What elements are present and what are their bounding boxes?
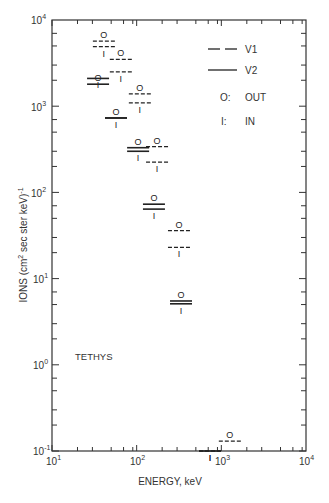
out-marker: O <box>112 107 119 117</box>
out-marker: O <box>100 30 107 40</box>
x-tick-labels: 101 102 103 104 <box>46 454 314 467</box>
x-tick-1e1: 101 <box>46 454 61 467</box>
data-point: O <box>143 193 165 204</box>
out-marker: O <box>117 48 124 58</box>
data-point: I <box>129 103 151 115</box>
data-point: I <box>93 47 115 59</box>
in-marker: I <box>156 164 159 174</box>
y-tick-1e4: 104 <box>31 13 46 26</box>
out-marker: O <box>154 136 161 146</box>
legend-v2-label: V2 <box>245 65 258 76</box>
out-marker: O <box>175 220 182 230</box>
y-tick-1e1: 101 <box>33 272 48 285</box>
x-tick-1e4: 104 <box>299 454 314 467</box>
data-point: O <box>219 430 241 441</box>
legend-in-label: IN <box>245 116 255 127</box>
data-point: I <box>170 304 192 316</box>
x-axis-title: ENERGY, keV <box>138 476 202 487</box>
chart-canvas: 104 103 102 101 100 10-1 101 102 103 104… <box>0 0 329 503</box>
data-point: I <box>146 162 168 174</box>
out-marker: O <box>135 137 142 147</box>
in-marker: I <box>178 249 181 259</box>
tethys-annotation: TETHYS <box>75 351 112 362</box>
data-points: OOOOOOIIIIIIOOOOOIIIIII <box>87 30 241 463</box>
y-tick-1e0: 100 <box>33 358 48 371</box>
out-marker: O <box>136 83 143 93</box>
out-marker: O <box>150 193 157 203</box>
y-tick-labels: 104 103 102 101 100 10-1 <box>31 13 50 457</box>
in-marker: I <box>97 80 100 90</box>
in-marker: I <box>137 153 140 163</box>
x-tick-1e3: 103 <box>215 454 230 467</box>
data-point: I <box>168 247 190 259</box>
in-marker: I <box>103 49 106 59</box>
y-tick-1e3: 103 <box>31 100 46 113</box>
data-point: O <box>168 220 190 231</box>
data-point: O <box>93 30 115 41</box>
in-marker: I <box>180 306 183 316</box>
in-marker: I <box>139 105 142 115</box>
in-marker: I <box>209 453 212 463</box>
legend: V1 V2 O: OUT I: IN <box>208 44 266 127</box>
data-point: O <box>129 83 151 94</box>
in-marker: I <box>120 74 123 84</box>
in-marker: I <box>153 211 156 221</box>
data-point: I <box>127 151 149 163</box>
legend-out-key: O: <box>220 92 231 103</box>
data-point: I <box>110 72 132 84</box>
y-tick-1e2: 102 <box>31 186 46 199</box>
data-point: O <box>127 137 149 148</box>
data-point: I <box>143 209 165 221</box>
legend-v1-label: V1 <box>245 44 258 55</box>
y-axis-title: IONS (cm2 sec ster keV)-1 <box>17 187 29 302</box>
x-tick-1e2: 102 <box>130 454 145 467</box>
data-point: O <box>170 290 192 301</box>
out-marker: O <box>178 290 185 300</box>
data-point: O <box>146 136 168 147</box>
data-point: O <box>105 107 127 118</box>
in-marker: I <box>115 120 118 130</box>
data-point: O <box>110 48 132 59</box>
legend-in-key: I: <box>221 116 227 127</box>
data-point: I <box>105 118 127 130</box>
out-marker: O <box>226 430 233 440</box>
legend-out-label: OUT <box>245 92 266 103</box>
